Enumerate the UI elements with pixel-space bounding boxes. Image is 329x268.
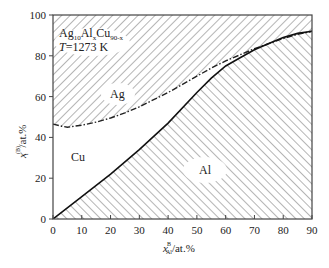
- region-label-cu: Cu: [71, 150, 85, 164]
- x-tick-label: 50: [191, 224, 203, 236]
- phase-fraction-chart: 0102030405060708090020406080100 Ag10AlxC…: [0, 0, 329, 268]
- x-tick-label: 70: [249, 224, 261, 236]
- x-tick-label: 60: [220, 224, 232, 236]
- x-tick-label: 80: [278, 224, 290, 236]
- y-tick-label: 60: [35, 91, 47, 103]
- x-tick-label: 30: [134, 224, 146, 236]
- x-tick-label: 90: [307, 224, 319, 236]
- y-tick-label: 80: [35, 50, 47, 62]
- temperature-annotation: T=1273 K: [59, 40, 108, 54]
- region-label-al: Al: [199, 163, 212, 177]
- region-label-ag: Ag: [110, 87, 125, 101]
- x-tick-label: 10: [76, 224, 88, 236]
- x-tick-label: 20: [105, 224, 117, 236]
- x-tick-label: 40: [163, 224, 175, 236]
- x-tick-label: 0: [50, 224, 56, 236]
- x-axis-label: xBAl/at.%: [162, 241, 195, 255]
- y-tick-label: 0: [41, 213, 47, 225]
- y-axis-label: x(B)i/at.%: [15, 125, 29, 159]
- y-tick-label: 100: [30, 9, 47, 21]
- y-tick-label: 40: [35, 131, 47, 143]
- y-tick-label: 20: [35, 172, 47, 184]
